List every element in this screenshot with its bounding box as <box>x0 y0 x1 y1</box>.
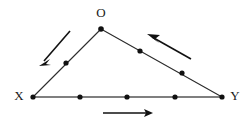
point-dot-ox-1 <box>63 60 68 65</box>
vertex-label-y: Y <box>230 88 240 103</box>
geometry-figure: O X Y <box>0 0 249 127</box>
point-dot-vertex-o <box>98 26 104 32</box>
triangle-diagram-canvas: O X Y <box>0 0 249 127</box>
arrow-up-left <box>147 34 191 59</box>
point-dot-oy-1 <box>137 48 142 53</box>
arrow-right <box>103 109 153 117</box>
point-dot-base-1 <box>77 94 82 99</box>
point-dot-vertex-x <box>30 94 35 99</box>
point-dot-oy-2 <box>179 70 184 75</box>
vertex-label-o: O <box>96 5 105 20</box>
point-dot-base-3 <box>172 94 177 99</box>
point-dot-vertex-y <box>219 94 224 99</box>
point-dot-base-2 <box>124 94 129 99</box>
edge-O-Y <box>101 29 222 97</box>
vertex-label-x: X <box>14 88 24 103</box>
